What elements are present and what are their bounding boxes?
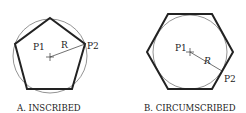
radius-label: R	[61, 40, 68, 50]
caption: B. CIRCUMSCRIBED	[144, 103, 236, 113]
inscribed-diagram: P1 R P2 A. INSCRIBED	[13, 18, 99, 113]
polygon-diagram: P1 R P2 A. INSCRIBED P1 R P2 B. CIRCUMSC…	[0, 0, 246, 113]
center-label: P1	[175, 43, 187, 53]
point-label: P2	[87, 41, 99, 51]
circumscribed-diagram: P1 R P2 B. CIRCUMSCRIBED	[144, 14, 236, 113]
caption: A. INSCRIBED	[16, 103, 81, 113]
radius-label: R	[203, 56, 211, 66]
center-label: P1	[33, 42, 45, 52]
point-label: P2	[224, 74, 236, 84]
